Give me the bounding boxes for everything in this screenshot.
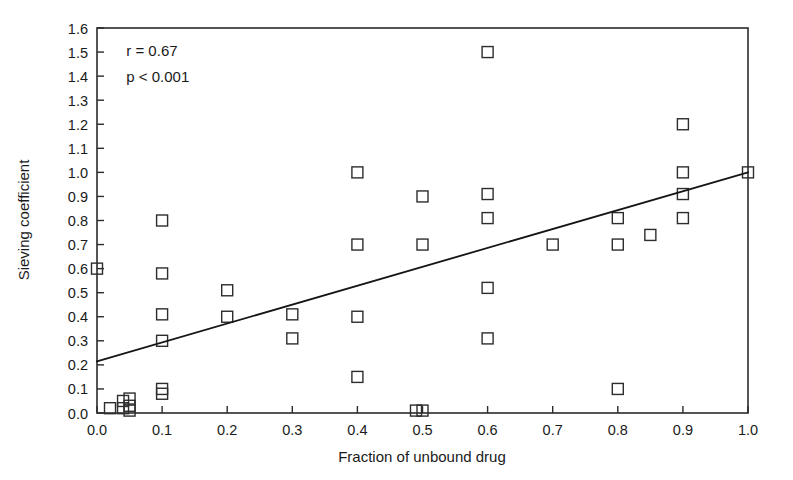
y-tick-label: 1.5: [68, 45, 88, 61]
y-tick-label: 1.1: [68, 141, 88, 157]
y-tick-label: 1.3: [68, 93, 88, 109]
figure-background: [0, 0, 793, 480]
x-tick-label: 0.8: [608, 422, 628, 438]
y-tick-label: 1.4: [68, 69, 88, 85]
y-tick-label: 0.2: [68, 357, 88, 373]
x-tick-label: 1.0: [738, 422, 758, 438]
x-tick-label: 0.0: [87, 422, 107, 438]
y-tick-label: 0.1: [68, 381, 88, 397]
annotation-text: r = 0.67: [126, 42, 177, 59]
y-tick-label: 0.7: [68, 237, 88, 253]
y-tick-label: 0.9: [68, 189, 88, 205]
x-tick-label: 0.9: [673, 422, 693, 438]
x-tick-label: 0.3: [282, 422, 302, 438]
y-tick-label: 0.4: [68, 309, 88, 325]
x-tick-label: 0.2: [217, 422, 237, 438]
x-tick-label: 0.4: [347, 422, 367, 438]
scatter-plot-figure: 0.00.10.20.30.40.50.60.70.80.91.0 0.00.1…: [0, 0, 793, 480]
x-tick-label: 0.5: [412, 422, 432, 438]
x-tick-label: 0.7: [543, 422, 563, 438]
y-tick-label: 0.8: [68, 213, 88, 229]
y-tick-label: 0.6: [68, 261, 88, 277]
y-tick-label: 0.0: [68, 406, 88, 422]
x-tick-label: 0.1: [152, 422, 172, 438]
y-tick-label: 1.0: [68, 165, 88, 181]
annotation-text: p < 0.001: [126, 68, 189, 85]
y-tick-label: 0.3: [68, 333, 88, 349]
y-axis-title: Sieving coefficient: [15, 159, 32, 280]
y-tick-label: 1.6: [68, 21, 88, 37]
x-axis-title: Fraction of unbound drug: [338, 448, 506, 465]
y-axis-tick-labels: 0.00.10.20.30.40.50.60.70.80.91.01.11.21…: [68, 21, 88, 422]
y-tick-label: 0.5: [68, 285, 88, 301]
y-tick-label: 1.2: [68, 117, 88, 133]
x-tick-label: 0.6: [478, 422, 498, 438]
